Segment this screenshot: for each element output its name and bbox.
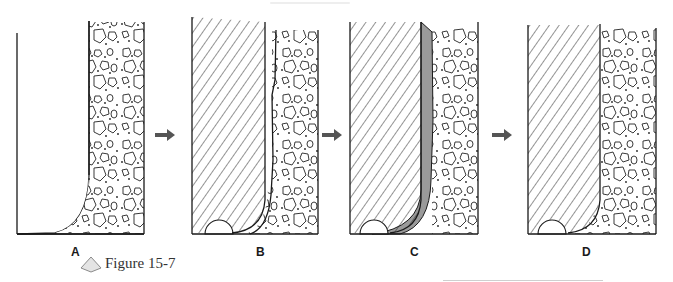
panel-d [528,24,656,234]
panel-label-b: B [256,245,265,259]
diamond-icon [80,253,102,273]
panel-label-a: A [71,245,80,259]
panel-label-d: D [582,245,591,259]
panel-a [17,21,144,234]
figure-caption: Figure 15-7 [80,253,175,273]
divider [443,280,603,281]
panel-b [192,17,318,234]
caption-text: Figure 15-7 [105,255,175,272]
panel-label-c: C [410,245,419,259]
arrow-right-icon [322,129,342,141]
arrow-right-icon [492,129,512,141]
figure-diagram [0,0,673,282]
panel-c [350,22,478,234]
arrow-right-icon [155,129,175,141]
